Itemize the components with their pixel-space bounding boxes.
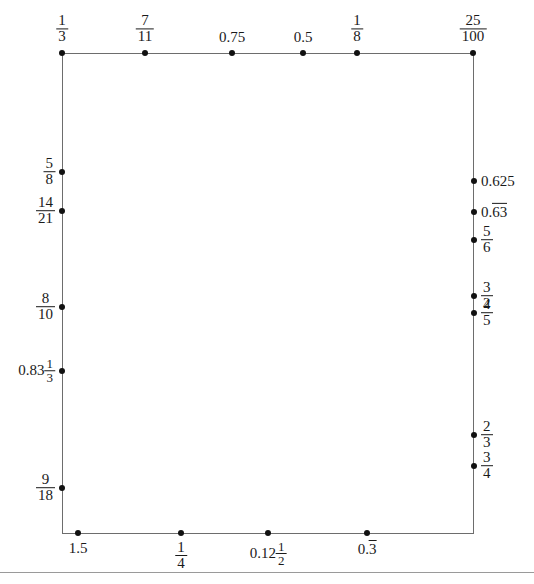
point-dot-left-4[interactable] — [59, 368, 65, 374]
point-label-top-2: 711 — [136, 13, 154, 45]
point-dot-top-1[interactable] — [59, 50, 65, 56]
point-dot-right-2[interactable] — [471, 209, 477, 215]
point-dot-right-7[interactable] — [471, 463, 477, 469]
point-dot-bottom-2[interactable] — [178, 530, 184, 536]
point-dot-right-1[interactable] — [471, 178, 477, 184]
point-dot-bottom-4[interactable] — [364, 530, 370, 536]
point-label-right-2: 0.63 — [481, 203, 507, 221]
point-label-left-2: 1421 — [36, 195, 55, 227]
point-label-top-5: 18 — [351, 13, 363, 45]
point-dot-bottom-1[interactable] — [75, 530, 81, 536]
point-dot-right-5[interactable] — [471, 310, 477, 316]
point-dot-left-1[interactable] — [59, 169, 65, 175]
point-label-left-1: 58 — [44, 156, 56, 188]
number-figure: 137110.750.518251001.5140.12120.35814218… — [0, 0, 534, 584]
point-label-right-7: 34 — [481, 450, 493, 482]
point-label-top-1: 13 — [56, 13, 68, 45]
point-label-right-6: 23 — [481, 419, 493, 451]
point-dot-left-3[interactable] — [59, 304, 65, 310]
point-dot-top-6[interactable] — [470, 50, 476, 56]
point-label-bottom-3: 0.1212 — [250, 540, 287, 568]
point-label-left-5: 918 — [36, 472, 55, 504]
rect-top-edge — [62, 53, 474, 54]
point-label-left-3: 810 — [36, 291, 55, 323]
point-dot-right-4[interactable] — [471, 293, 477, 299]
point-dot-top-4[interactable] — [300, 50, 306, 56]
point-label-bottom-2: 14 — [175, 540, 187, 572]
point-label-right-3: 56 — [481, 224, 493, 256]
point-label-top-4: 0.5 — [294, 29, 313, 45]
point-dot-right-3[interactable] — [471, 237, 477, 243]
point-dot-top-5[interactable] — [354, 50, 360, 56]
point-label-right-1: 0.625 — [481, 173, 515, 189]
point-dot-left-5[interactable] — [59, 485, 65, 491]
point-dot-top-3[interactable] — [229, 50, 235, 56]
point-label-bottom-4: 0.3 — [358, 540, 377, 558]
rect-left-edge — [62, 53, 63, 533]
point-dot-left-2[interactable] — [59, 208, 65, 214]
point-label-top-6: 25100 — [460, 13, 487, 45]
point-label-right-5: 45 — [481, 297, 493, 329]
point-dot-bottom-3[interactable] — [265, 530, 271, 536]
footer-divider — [0, 572, 534, 573]
point-dot-right-6[interactable] — [471, 432, 477, 438]
point-label-bottom-1: 1.5 — [69, 540, 88, 556]
point-label-top-3: 0.75 — [219, 29, 245, 45]
point-dot-top-2[interactable] — [142, 50, 148, 56]
point-label-left-4: 0.8313 — [18, 357, 55, 385]
